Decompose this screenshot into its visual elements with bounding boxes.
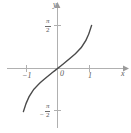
- pi-half-numerator: π: [45, 18, 51, 25]
- y-axis-label: y: [53, 1, 57, 9]
- x-tick-label-neg-one: −1: [22, 72, 31, 80]
- neg-pi-half-denominator: 2: [45, 112, 51, 119]
- neg-pi-half-numerator: π: [45, 103, 51, 110]
- neg-pi-half-sign: −: [40, 112, 44, 119]
- neg-pi-half-fraction: π 2: [45, 103, 51, 119]
- arcsin-graph-figure: y x 0 −1 1 π 2 − π 2: [0, 0, 131, 133]
- pi-half-fraction: π 2: [45, 18, 51, 34]
- y-tick-label-pi-half: π 2: [44, 18, 51, 34]
- origin-label: 0: [60, 70, 64, 78]
- y-tick-label-neg-pi-half: − π 2: [40, 103, 50, 119]
- x-axis-label: x: [121, 70, 125, 78]
- pi-half-denominator: 2: [45, 27, 51, 34]
- plot-area: [0, 0, 131, 133]
- x-tick-label-one: 1: [88, 72, 92, 80]
